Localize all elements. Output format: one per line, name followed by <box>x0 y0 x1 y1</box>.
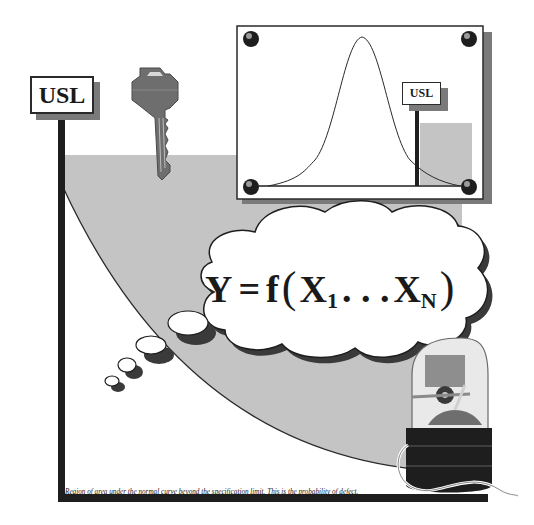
formula-lhs: Y <box>205 267 232 311</box>
formula-xn-sub: N <box>421 288 437 313</box>
pushpin-icon <box>243 179 259 195</box>
formula-equals: = <box>238 267 260 311</box>
formula-open-paren: ( <box>282 262 297 313</box>
formula-x1-base: X <box>299 268 326 310</box>
pushpin-icon <box>461 179 477 195</box>
chart-shaded-tail <box>420 123 472 185</box>
formula-xn-base: X <box>393 268 420 310</box>
formula-x1: X1 <box>299 267 337 314</box>
bell-jar-mechanism-icon <box>398 338 518 496</box>
usl-post <box>58 118 65 496</box>
pushpin-icon <box>461 31 477 47</box>
formula: Y = f ( X1 . . . XN ) <box>205 262 475 322</box>
formula-xn: XN <box>393 267 436 314</box>
formula-x1-sub: 1 <box>327 288 338 313</box>
pushpin-icon <box>243 31 259 47</box>
chart-usl-sign: USL <box>402 82 441 105</box>
usl-sign-label: USL <box>39 82 86 109</box>
chart-usl-sign-label: USL <box>410 86 433 101</box>
usl-sign-main: USL <box>30 76 94 114</box>
caption: Region of area under the normal curve be… <box>65 488 358 496</box>
illustration: USL USL Y = f ( X1 . . . XN ) Region of … <box>0 0 534 525</box>
formula-close-paren: ) <box>440 262 455 313</box>
formula-ellipsis: . . . <box>342 267 390 311</box>
formula-func: f <box>266 267 279 311</box>
